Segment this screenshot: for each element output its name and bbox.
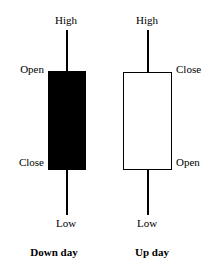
down-day-close-label: Close bbox=[0, 157, 44, 168]
candlestick-up-day: High Close Open Low bbox=[104, 0, 208, 240]
down-day-upper-wick bbox=[66, 30, 68, 72]
down-day-open-label: Open bbox=[0, 64, 44, 75]
caption-up-day: Up day bbox=[116, 246, 188, 258]
candlestick-diagram: High Open Close Low High Close Open Low … bbox=[0, 0, 208, 271]
caption-down-day: Down day bbox=[14, 246, 94, 258]
down-day-body bbox=[48, 71, 86, 170]
down-day-lower-wick bbox=[66, 169, 68, 215]
up-day-low-label: Low bbox=[117, 218, 177, 229]
up-day-open-label: Open bbox=[176, 157, 208, 168]
up-day-high-label: High bbox=[117, 15, 177, 26]
up-day-body bbox=[123, 72, 172, 170]
down-day-high-label: High bbox=[36, 15, 96, 26]
candlestick-down-day: High Open Close Low bbox=[0, 0, 104, 240]
up-day-close-label: Close bbox=[176, 64, 208, 75]
down-day-low-label: Low bbox=[36, 218, 96, 229]
up-day-lower-wick bbox=[147, 169, 149, 215]
up-day-upper-wick bbox=[147, 30, 149, 73]
